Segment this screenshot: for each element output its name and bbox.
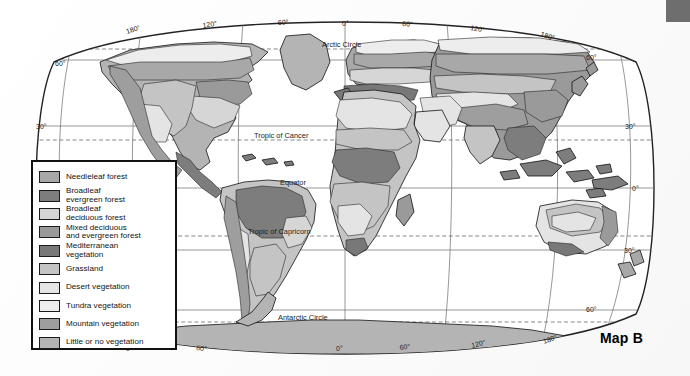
legend-item-little-or-no-vegetation: Little or no vegetation (39, 334, 171, 352)
corner-marker-block (666, 0, 690, 22)
legend-label-desert-vegetation: Desert vegetation (66, 283, 129, 292)
label-tropic-of-cancer: Tropic of Cancer (254, 131, 309, 140)
svg-text:0°: 0° (342, 20, 349, 27)
legend-label-grassland: Grassland (66, 265, 103, 274)
svg-text:60°: 60° (196, 344, 208, 352)
legend-item-broadleaf-deciduous-forest: Broadleaf deciduous forest (39, 205, 171, 223)
label-arctic-circle: Arctic Circle (322, 40, 361, 49)
page-root: Arctic Circle Tropic of Cancer Equator T… (0, 0, 690, 376)
legend-swatch-mountain-vegetation (39, 318, 60, 330)
legend-swatch-mixed-deciduous-and-evergreen-forest (39, 226, 60, 238)
svg-text:30°: 30° (36, 123, 47, 130)
legend-label-broadleaf-evergreen-forest: Broadleaf evergreen forest (66, 187, 125, 204)
svg-text:60°: 60° (55, 60, 66, 67)
legend-swatch-needleleaf-forest (39, 171, 60, 183)
label-equator: Equator (280, 178, 306, 187)
legend-label-broadleaf-deciduous-forest: Broadleaf deciduous forest (66, 205, 125, 222)
legend-swatch-broadleaf-evergreen-forest (39, 190, 60, 202)
label-antarctic-circle: Antarctic Circle (278, 313, 328, 322)
svg-text:60°: 60° (586, 54, 597, 61)
legend-label-mountain-vegetation: Mountain vegetation (66, 320, 139, 329)
legend-item-mixed-deciduous-and-evergreen-forest: Mixed deciduous and evergreen forest (39, 223, 171, 241)
svg-text:60°: 60° (402, 20, 413, 28)
legend-item-needleleaf-forest: Needleleaf forest (39, 168, 171, 186)
legend-swatch-tundra-vegetation (39, 300, 60, 312)
svg-text:60°: 60° (399, 343, 411, 351)
svg-text:30°: 30° (625, 123, 636, 130)
legend-label-needleleaf-forest: Needleleaf forest (66, 173, 127, 182)
legend-swatch-grassland (39, 263, 60, 275)
legend-item-desert-vegetation: Desert vegetation (39, 278, 171, 296)
legend-item-tundra-vegetation: Tundra vegetation (39, 297, 171, 315)
legend-item-mountain-vegetation: Mountain vegetation (39, 315, 171, 333)
legend-label-mediterranean-vegetation: Mediterranean vegetation (66, 242, 118, 259)
svg-text:0°: 0° (632, 185, 639, 192)
svg-text:180°: 180° (125, 24, 141, 35)
legend-swatch-broadleaf-deciduous-forest (39, 208, 60, 220)
legend-label-mixed-deciduous-and-evergreen-forest: Mixed deciduous and evergreen forest (66, 224, 141, 241)
label-tropic-of-capricorn: Tropic of Capricorn (248, 227, 311, 236)
map-legend: Needleleaf forest Broadleaf evergreen fo… (31, 160, 177, 350)
svg-text:60°: 60° (586, 306, 597, 313)
legend-swatch-mediterranean-vegetation (39, 245, 60, 257)
legend-item-mediterranean-vegetation: Mediterranean vegetation (39, 242, 171, 260)
legend-label-little-or-no-vegetation: Little or no vegetation (66, 338, 143, 347)
legend-item-broadleaf-evergreen-forest: Broadleaf evergreen forest (39, 186, 171, 204)
svg-text:60°: 60° (278, 18, 289, 26)
svg-text:0°: 0° (336, 345, 343, 352)
figure-caption: Map B (600, 330, 643, 346)
legend-swatch-little-or-no-vegetation (39, 337, 60, 349)
legend-swatch-desert-vegetation (39, 282, 60, 294)
svg-text:30°: 30° (624, 247, 635, 254)
legend-label-tundra-vegetation: Tundra vegetation (66, 302, 131, 311)
legend-item-grassland: Grassland (39, 260, 171, 278)
